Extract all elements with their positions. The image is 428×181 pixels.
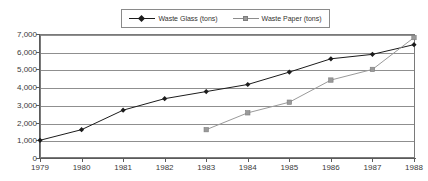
data-point-diamond-marker[interactable]	[121, 108, 126, 113]
data-point-diamond-marker[interactable]	[245, 82, 250, 87]
data-point-square-marker[interactable]	[287, 100, 291, 104]
series-line-square	[206, 38, 414, 130]
series-line-diamond	[40, 45, 414, 141]
data-point-diamond-marker[interactable]	[411, 42, 416, 47]
data-point-diamond-marker[interactable]	[162, 96, 167, 101]
data-point-square-marker[interactable]	[370, 67, 374, 71]
data-point-square-marker[interactable]	[329, 78, 333, 82]
data-point-square-marker[interactable]	[204, 127, 208, 131]
data-point-diamond-marker[interactable]	[37, 138, 42, 143]
data-point-diamond-marker[interactable]	[287, 69, 292, 74]
data-point-square-marker[interactable]	[246, 111, 250, 115]
data-point-diamond-marker[interactable]	[328, 56, 333, 61]
data-point-diamond-marker[interactable]	[79, 127, 84, 132]
data-point-diamond-marker[interactable]	[204, 89, 209, 94]
data-point-diamond-marker[interactable]	[370, 52, 375, 57]
data-point-square-marker[interactable]	[412, 35, 416, 39]
